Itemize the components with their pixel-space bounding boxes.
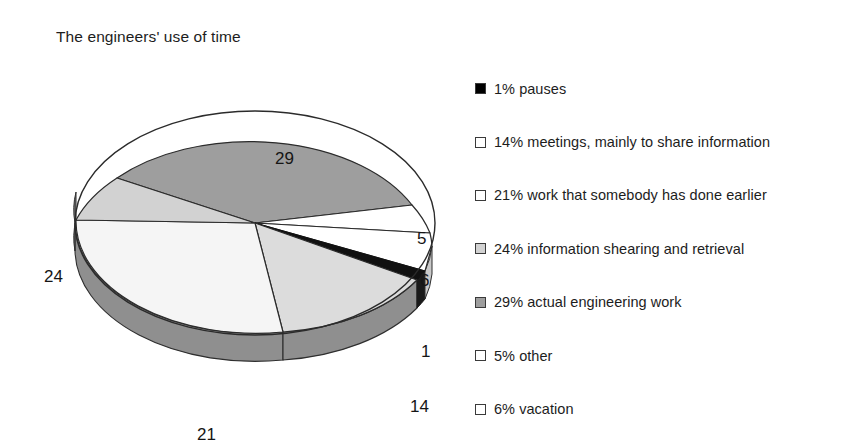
legend-swatch-icon — [475, 137, 486, 148]
legend-swatch-icon — [475, 297, 486, 308]
legend-label: 21% work that somebody has done earlier — [494, 187, 767, 203]
legend-swatch-icon — [475, 404, 486, 415]
pie-graphic — [0, 60, 470, 420]
legend-item-actual-engineering-work[interactable]: 29% actual engineering work — [475, 276, 860, 329]
legend-label: 6% vacation — [494, 401, 574, 417]
data-label-14: 14 — [410, 398, 429, 415]
legend-item-other[interactable]: 5% other — [475, 329, 860, 382]
legend-item-meetings[interactable]: 14% meetings, mainly to share informatio… — [475, 115, 860, 168]
slice-21-work-done-earlier[interactable] — [76, 220, 283, 333]
legend-item-information-shearing[interactable]: 24% information shearing and retrieval — [475, 222, 860, 275]
pie-plot-area: 29 5 6 1 14 21 24 — [0, 60, 470, 420]
legend-label: 24% information shearing and retrieval — [494, 241, 744, 257]
legend-swatch-icon — [475, 190, 486, 201]
legend-label: 1% pauses — [494, 81, 566, 97]
legend-item-pauses[interactable]: 1% pauses — [475, 62, 860, 115]
legend-swatch-icon — [475, 83, 486, 94]
legend-label: 29% actual engineering work — [494, 294, 682, 310]
pie-chart-figure: The engineers' use of time — [0, 0, 867, 447]
legend-swatch-icon — [475, 243, 486, 254]
legend-label: 5% other — [494, 348, 552, 364]
data-label-21: 21 — [197, 426, 216, 443]
legend-label: 14% meetings, mainly to share informatio… — [494, 134, 770, 150]
legend-item-work-done-earlier[interactable]: 21% work that somebody has done earlier — [475, 169, 860, 222]
data-label-1: 1 — [421, 343, 430, 360]
chart-legend: 1% pauses 14% meetings, mainly to share … — [475, 62, 860, 436]
data-label-24: 24 — [44, 268, 63, 285]
data-label-6: 6 — [420, 272, 429, 289]
data-label-29: 29 — [275, 150, 294, 167]
data-label-5: 5 — [417, 230, 426, 247]
legend-swatch-icon — [475, 350, 486, 361]
legend-item-vacation[interactable]: 6% vacation — [475, 382, 860, 435]
chart-title: The engineers' use of time — [56, 28, 241, 46]
